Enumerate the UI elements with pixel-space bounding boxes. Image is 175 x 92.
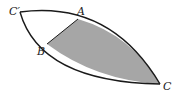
label-c: C (163, 80, 172, 92)
label-a: A (76, 5, 85, 18)
shaded-region (47, 19, 160, 84)
lens-diagram: C′ A B C (0, 0, 175, 92)
label-c-prime: C′ (9, 5, 20, 18)
label-b: B (36, 45, 45, 58)
